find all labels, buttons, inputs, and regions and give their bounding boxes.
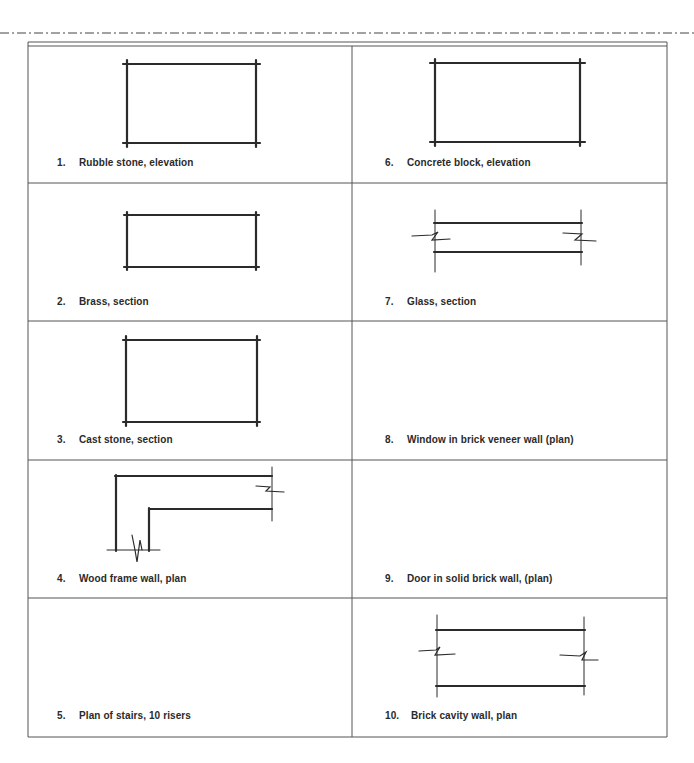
panel-caption: Cast stone, section bbox=[79, 434, 173, 445]
break-symbol bbox=[560, 652, 598, 660]
panel-number: 3. bbox=[57, 434, 79, 445]
caption-panel-8: 8.Window in brick veneer wall (plan) bbox=[385, 434, 574, 445]
panel-caption: Brass, section bbox=[79, 296, 149, 307]
panel-number: 1. bbox=[57, 157, 79, 168]
break-symbol bbox=[256, 486, 284, 492]
figure-brass-rectangle bbox=[124, 212, 259, 270]
caption-panel-10: 10.Brick cavity wall, plan bbox=[385, 710, 517, 721]
figure-wood-frame-wall bbox=[107, 467, 284, 562]
figure-rubble-stone-rectangle bbox=[123, 60, 260, 147]
caption-panel-4: 4.Wood frame wall, plan bbox=[57, 573, 187, 584]
figure-brick-cavity-wall bbox=[419, 615, 598, 697]
panel-number: 8. bbox=[385, 434, 407, 445]
panel-caption: Plan of stairs, 10 risers bbox=[79, 710, 191, 721]
panel-caption: Window in brick veneer wall (plan) bbox=[407, 434, 574, 445]
panel-number: 4. bbox=[57, 573, 79, 584]
panel-caption: Rubble stone, elevation bbox=[79, 157, 194, 168]
caption-panel-3: 3.Cast stone, section bbox=[57, 434, 173, 445]
caption-panel-6: 6.Concrete block, elevation bbox=[385, 157, 531, 168]
break-symbol bbox=[412, 232, 450, 240]
figure-glass-section bbox=[412, 210, 596, 272]
panel-caption: Door in solid brick wall, (plan) bbox=[407, 573, 552, 584]
break-symbol bbox=[563, 233, 596, 241]
figure-cast-stone-rectangle bbox=[123, 336, 260, 426]
panel-number: 6. bbox=[385, 157, 407, 168]
panel-caption: Brick cavity wall, plan bbox=[411, 710, 517, 721]
panel-number: 9. bbox=[385, 573, 407, 584]
panel-number: 5. bbox=[57, 710, 79, 721]
panel-caption: Concrete block, elevation bbox=[407, 157, 531, 168]
panel-number: 10. bbox=[385, 710, 411, 721]
table-grid bbox=[28, 42, 667, 737]
caption-panel-1: 1.Rubble stone, elevation bbox=[57, 157, 194, 168]
panel-number: 7. bbox=[385, 296, 407, 307]
caption-panel-9: 9.Door in solid brick wall, (plan) bbox=[385, 573, 552, 584]
break-symbol bbox=[132, 535, 142, 562]
figure-concrete-block-rectangle bbox=[430, 59, 585, 146]
caption-panel-5: 5.Plan of stairs, 10 risers bbox=[57, 710, 191, 721]
caption-panel-7: 7.Glass, section bbox=[385, 296, 476, 307]
panel-number: 2. bbox=[57, 296, 79, 307]
panel-caption: Glass, section bbox=[407, 296, 476, 307]
drawing-sheet bbox=[0, 0, 694, 763]
caption-panel-2: 2.Brass, section bbox=[57, 296, 149, 307]
panel-caption: Wood frame wall, plan bbox=[79, 573, 187, 584]
